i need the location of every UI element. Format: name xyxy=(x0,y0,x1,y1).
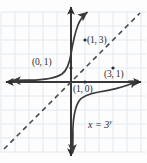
point-label-0-1: (0, 1) xyxy=(32,57,51,67)
equation-label: x = 3y xyxy=(88,118,112,130)
graph-figure: (1, 3) (0, 1) (3, 1) (1, 0) x = 3y xyxy=(0,0,147,163)
graph-canvas xyxy=(0,0,147,163)
curve-y-equals-3-to-x xyxy=(11,13,87,81)
point-label-1-3: (1, 3) xyxy=(87,35,106,45)
equation-base: x = 3 xyxy=(88,119,109,130)
point-0-1 xyxy=(69,66,72,69)
point-label-3-1: (3, 1) xyxy=(104,69,123,79)
point-label-1-0: (1, 0) xyxy=(73,84,92,94)
equation-exponent: y xyxy=(109,118,112,125)
